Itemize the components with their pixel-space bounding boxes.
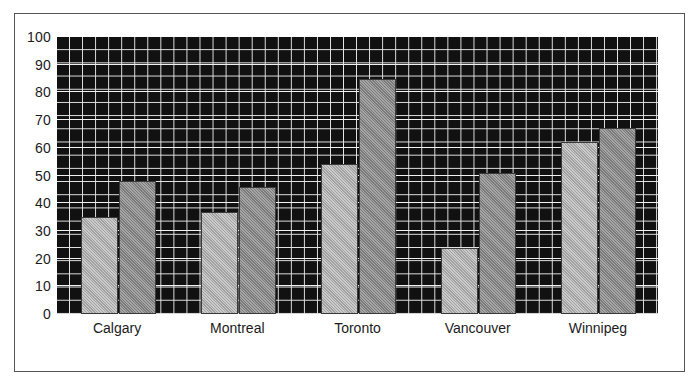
y-axis-tick-label: 50 [35, 168, 51, 184]
x-axis-tick-label-winnipeg: Winnipeg [569, 320, 627, 336]
bar-vancouver-series-2[interactable] [479, 173, 516, 314]
plot-wrap [57, 37, 658, 314]
bar-toronto-series-1[interactable] [321, 164, 358, 314]
x-axis-tick-label-montreal: Montreal [210, 320, 264, 336]
y-axis-tick-label: 10 [35, 278, 51, 294]
bar-winnipeg-series-1[interactable] [561, 142, 598, 314]
y-axis-tick-label: 70 [35, 112, 51, 128]
bar-montreal-series-2[interactable] [239, 187, 276, 314]
x-axis-tick-label-vancouver: Vancouver [445, 320, 511, 336]
y-axis-tick-label: 20 [35, 251, 51, 267]
bar-group [297, 37, 417, 314]
chart-frame: 1009080706050403020100 CalgaryMontrealTo… [14, 13, 685, 372]
bars-layer [57, 37, 658, 314]
y-axis-tick-label: 0 [43, 306, 51, 322]
bar-toronto-series-2[interactable] [359, 79, 396, 314]
bar-group [418, 37, 538, 314]
bar-calgary-series-2[interactable] [119, 181, 156, 314]
bar-calgary-series-1[interactable] [81, 217, 118, 314]
y-axis-tick-label: 100 [27, 29, 51, 45]
x-axis-tick-label-toronto: Toronto [334, 320, 381, 336]
bar-vancouver-series-1[interactable] [441, 248, 478, 314]
plot-area [57, 37, 658, 314]
y-axis: 1009080706050403020100 [15, 37, 55, 314]
y-axis-tick-label: 90 [35, 57, 51, 73]
y-axis-tick-label: 30 [35, 223, 51, 239]
bar-group [57, 37, 177, 314]
bar-group [538, 37, 658, 314]
bar-winnipeg-series-2[interactable] [599, 128, 636, 314]
y-axis-tick-label: 60 [35, 140, 51, 156]
bar-group [177, 37, 297, 314]
x-axis-tick-label-calgary: Calgary [93, 320, 141, 336]
y-axis-tick-label: 80 [35, 84, 51, 100]
bar-montreal-series-1[interactable] [201, 212, 238, 314]
x-axis: CalgaryMontrealTorontoVancouverWinnipeg [57, 320, 658, 344]
y-axis-tick-label: 40 [35, 195, 51, 211]
